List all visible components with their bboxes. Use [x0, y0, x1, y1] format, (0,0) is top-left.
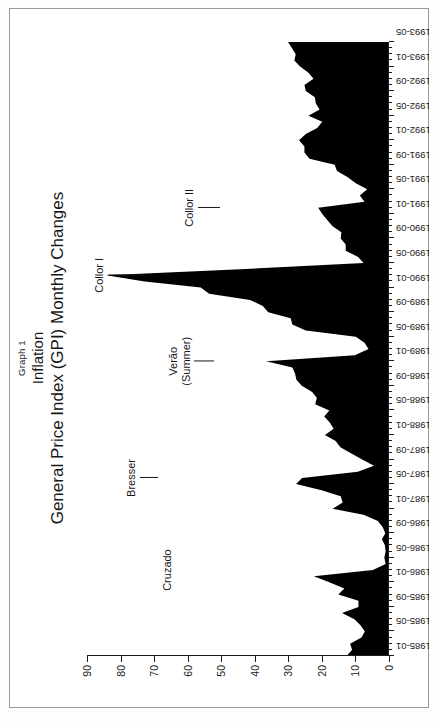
date-axis-tick-minor	[389, 514, 392, 515]
value-axis-label: 40	[249, 665, 261, 677]
date-axis-tick-minor	[389, 84, 392, 85]
value-axis-label: 60	[182, 665, 194, 677]
value-axis-tick	[288, 656, 289, 662]
date-axis-label: 1993-05	[396, 27, 429, 38]
date-axis-label: 1991-05	[396, 174, 429, 185]
date-axis-label: 1986-09	[396, 518, 429, 529]
date-axis-tick-minor	[389, 471, 392, 472]
date-axis-tick-minor	[389, 428, 392, 429]
date-axis-label: 1991-01	[396, 199, 429, 210]
date-axis-tick-minor	[389, 600, 392, 601]
figure-title-block: Graph 1 Inflation General Price Index (G…	[15, 8, 69, 708]
date-axis-tick-minor	[389, 446, 392, 447]
date-axis-tick-major	[389, 557, 394, 558]
date-axis-label: 1987-09	[396, 445, 429, 456]
date-axis-label: 1990-09	[396, 223, 429, 234]
date-axis-label: 1992-09	[396, 76, 429, 87]
date-axis-tick-major	[389, 90, 394, 91]
date-axis-tick-minor	[389, 219, 392, 220]
date-axis-tick-minor	[389, 624, 392, 625]
date-axis-tick-minor	[389, 403, 392, 404]
date-axis-tick-minor	[389, 152, 392, 153]
value-axis-label: 20	[316, 665, 328, 677]
date-axis-tick-minor	[389, 477, 392, 478]
date-axis-tick-minor	[389, 495, 392, 496]
inflation-area-series	[87, 42, 389, 656]
plot-inner: 0102030405060708090 1985-011985-051985-0…	[87, 42, 389, 656]
date-axis-tick-minor	[389, 563, 392, 564]
date-axis-tick-minor	[389, 96, 392, 97]
date-axis-tick-minor	[389, 72, 392, 73]
date-axis-tick-major	[389, 287, 394, 288]
date-axis-tick-minor	[389, 182, 392, 183]
date-axis-tick-minor	[389, 121, 392, 122]
date-axis-tick-major	[389, 311, 394, 312]
date-axis-tick-minor	[389, 391, 392, 392]
date-axis-tick-major	[389, 630, 394, 631]
date-axis-tick-minor	[389, 225, 392, 226]
value-axis-tick	[255, 656, 256, 662]
figure: Graph 1 Inflation General Price Index (G…	[9, 8, 429, 708]
date-axis-tick-minor	[389, 520, 392, 521]
date-axis-tick-minor	[389, 489, 392, 490]
figure-subject: Inflation	[28, 8, 47, 708]
date-axis-tick-minor	[389, 551, 392, 552]
date-axis-tick-major	[389, 41, 394, 42]
date-axis-tick-minor	[389, 637, 392, 638]
date-axis-tick-major	[389, 115, 394, 116]
date-axis-tick-minor	[389, 465, 392, 466]
date-axis-tick-major	[389, 164, 394, 165]
value-axis-tick	[322, 656, 323, 662]
figure-title: General Price Index (GPI) Monthly Change…	[47, 8, 69, 708]
date-axis-tick-minor	[389, 379, 392, 380]
date-axis-tick-minor	[389, 354, 392, 355]
value-axis-line	[87, 655, 389, 656]
date-axis-tick-major	[389, 606, 394, 607]
annotation-label: Bresser	[125, 459, 138, 497]
value-axis-label: 90	[81, 665, 93, 677]
value-axis-tick	[87, 656, 88, 662]
date-axis-tick-minor	[389, 342, 392, 343]
annotation-leader-line	[198, 207, 220, 208]
date-axis-label: 1987-05	[396, 469, 429, 480]
annotation-verao: Verão(Summer)	[167, 337, 214, 386]
date-axis-tick-minor	[389, 256, 392, 257]
date-axis-label: 1989-05	[396, 322, 429, 333]
date-axis-tick-minor	[389, 649, 392, 650]
date-axis-tick-minor	[389, 373, 392, 374]
date-axis-tick-major	[389, 655, 394, 656]
graph-number: Graph 1	[15, 8, 28, 708]
plot-area: 0102030405060708090 1985-011985-051985-0…	[87, 42, 389, 656]
annotation-label: Collor II	[183, 189, 196, 227]
date-axis-tick-minor	[389, 78, 392, 79]
date-axis-tick-minor	[389, 59, 392, 60]
date-axis-label: 1989-09	[396, 297, 429, 308]
date-axis-tick-minor	[389, 575, 392, 576]
date-axis-tick-minor	[389, 526, 392, 527]
date-axis-tick-major	[389, 532, 394, 533]
date-axis-tick-minor	[389, 618, 392, 619]
date-axis-tick-minor	[389, 127, 392, 128]
date-axis-tick-minor	[389, 612, 392, 613]
date-axis-tick-major	[389, 581, 394, 582]
date-axis-tick-minor	[389, 440, 392, 441]
date-axis-tick-minor	[389, 594, 392, 595]
date-axis-label: 1988-09	[396, 371, 429, 382]
date-axis-tick-minor	[389, 416, 392, 417]
date-axis-label: 1992-05	[396, 101, 429, 112]
date-axis-tick-minor	[389, 544, 392, 545]
value-axis-label: 0	[383, 665, 395, 671]
value-axis-label: 10	[349, 665, 361, 677]
date-axis-tick-minor	[389, 452, 392, 453]
annotation-label: Collor I	[93, 258, 106, 293]
annotation-label: (Summer)	[180, 337, 193, 386]
annotation-cruzado: Cruzado	[161, 549, 174, 591]
rotated-figure-wrapper: Graph 1 Inflation General Price Index (G…	[9, 8, 429, 708]
date-axis-label: 1989-01	[396, 346, 429, 357]
date-axis-tick-major	[389, 459, 394, 460]
date-axis-tick-major	[389, 237, 394, 238]
date-axis-tick-major	[389, 213, 394, 214]
date-axis-tick-minor	[389, 102, 392, 103]
date-axis-tick-minor	[389, 293, 392, 294]
value-axis-tick	[389, 656, 390, 662]
